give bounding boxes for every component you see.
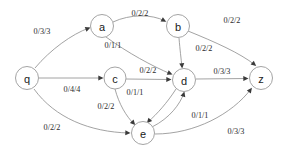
edge-label-e-to-d: 0/1/1 (192, 111, 209, 120)
arrowhead-d-to-z (243, 76, 248, 81)
edge-label-d-to-e: 0/1/1 (127, 88, 144, 97)
node-label-q: q (24, 73, 30, 85)
edge-label-e-to-z: 0/3/3 (228, 127, 245, 136)
node-label-z: z (258, 73, 264, 85)
arrowhead-b-to-d (179, 63, 184, 69)
edge-label-d-to-z: 0/3/3 (214, 67, 231, 76)
node-d[interactable]: d (173, 69, 196, 92)
edge-label-c-to-d: 0/2/2 (140, 66, 157, 75)
edge-label-q-to-c: 0/4/4 (64, 85, 81, 94)
arrowhead-q-to-c (98, 76, 103, 81)
arrowhead-b-to-z (251, 61, 258, 68)
arrowhead-a-to-d (167, 70, 174, 77)
flow-network-diagram: 0/3/30/4/40/2/20/2/20/1/10/2/20/2/20/2/2… (0, 0, 291, 153)
node-a[interactable]: a (91, 15, 114, 38)
arrowhead-a-to-b (161, 17, 168, 24)
edge-label-b-to-d: 0/2/2 (196, 44, 213, 53)
edge-d-to-e (148, 89, 176, 122)
edge-label-a-to-b: 0/2/2 (132, 9, 149, 18)
arrowhead-c-to-d (166, 77, 171, 82)
node-q[interactable]: q (16, 67, 39, 90)
node-label-a: a (99, 21, 106, 33)
node-label-c: c (112, 73, 118, 85)
node-z[interactable]: z (250, 67, 273, 90)
graph-canvas: 0/3/30/4/40/2/20/2/20/1/10/2/20/2/20/2/2… (0, 0, 291, 153)
node-label-d: d (181, 75, 187, 87)
edge-label-q-to-a: 0/3/3 (34, 27, 51, 36)
node-label-e: e (140, 128, 146, 140)
edge-label-b-to-z: 0/2/2 (224, 16, 241, 25)
edge-label-a-to-d: 0/1/1 (105, 41, 122, 50)
edge-d-to-z (196, 79, 247, 80)
edge-c-to-d (126, 79, 170, 80)
edge-label-q-to-e: 0/2/2 (44, 123, 61, 132)
node-c[interactable]: c (104, 67, 126, 89)
edge-b-to-d (179, 38, 182, 67)
node-b[interactable]: b (167, 15, 190, 38)
edge-label-c-to-e: 0/2/2 (98, 102, 115, 111)
node-label-b: b (175, 21, 181, 33)
node-e[interactable]: e (132, 122, 155, 145)
edge-e-to-d (152, 93, 184, 127)
arrowhead-q-to-e (125, 130, 130, 135)
